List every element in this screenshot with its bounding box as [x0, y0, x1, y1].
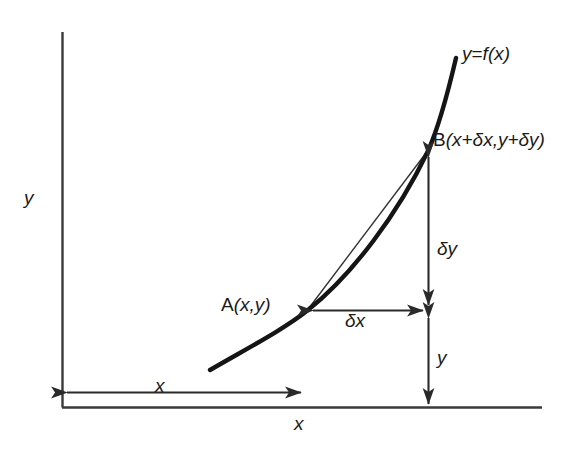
derivative-diagram: y x y=f(x) B(x+δx,y+δy) A(x,y) δx δy y x — [0, 0, 577, 453]
curve-label-y: y — [462, 43, 472, 64]
x-value-label: x — [155, 376, 165, 395]
x-axis-label: x — [294, 414, 304, 433]
point-a-label: A(x,y) — [221, 295, 271, 314]
point-a-coords: (x,y) — [234, 294, 271, 315]
diagram-canvas — [0, 0, 577, 453]
point-b-coords: (x+δx,y+δy) — [446, 129, 545, 150]
delta-y-label: δy — [437, 239, 457, 258]
point-b-letter: B — [433, 129, 446, 150]
curve-label-equals: = — [472, 43, 483, 64]
chord-line-AB — [306, 149, 429, 312]
point-a-letter: A — [221, 294, 234, 315]
curve-equation-label: y=f(x) — [462, 44, 510, 63]
function-curve — [210, 58, 456, 370]
y-value-label: y — [437, 348, 447, 367]
curve-label-argument: (x) — [488, 43, 510, 64]
delta-x-label: δx — [345, 311, 365, 330]
point-b-label: B(x+δx,y+δy) — [433, 130, 545, 149]
y-axis-label: y — [24, 188, 34, 207]
